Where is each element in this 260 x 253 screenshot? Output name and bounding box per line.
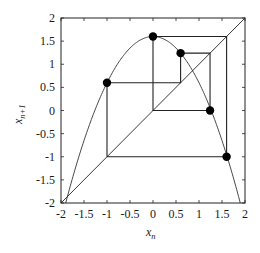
y-tick-label: 0.5: [40, 80, 55, 94]
orbit-point: [176, 49, 184, 57]
x-tick-label: -0.5: [121, 207, 140, 221]
x-axis-ticks: -2-1.5-1-0.500.511.52: [56, 18, 248, 221]
x-tick-label: 1.5: [215, 207, 230, 221]
orbit-point: [206, 106, 214, 114]
cobweb-chart: -2-1.5-1-0.500.511.52 -2-1.5-1-0.500.511…: [0, 0, 260, 253]
x-tick-label: 0: [150, 207, 156, 221]
plot-area: [61, 18, 245, 222]
y-axis-label: xn+1: [11, 104, 27, 125]
y-tick-label: -1: [45, 150, 55, 164]
y-tick-label: -0.5: [36, 127, 55, 141]
y-tick-label: -2: [45, 196, 55, 210]
orbit-point: [222, 153, 230, 161]
x-tick-label: -2: [56, 207, 66, 221]
x-tick-label: 1: [196, 207, 202, 221]
x-axis-label: xn: [145, 225, 156, 241]
x-tick-label: 2: [242, 207, 248, 221]
orbit-point: [103, 79, 111, 87]
y-tick-label: -1.5: [36, 173, 55, 187]
y-tick-label: 1.5: [40, 34, 55, 48]
x-tick-label: -1: [102, 207, 112, 221]
x-tick-label: -1.5: [75, 207, 94, 221]
orbit-point: [149, 32, 157, 40]
y-tick-label: 1: [49, 57, 55, 71]
y-tick-label: 0: [49, 104, 55, 118]
x-tick-label: 0.5: [169, 207, 184, 221]
y-tick-label: 2: [49, 11, 55, 25]
